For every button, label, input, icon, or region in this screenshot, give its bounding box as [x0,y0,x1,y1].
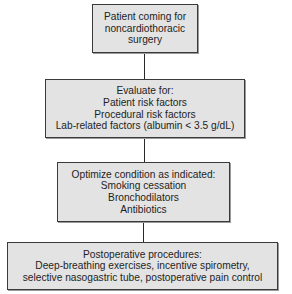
node-text: noncardiothoracic [105,23,185,35]
node-text: Patient coming for [104,11,186,23]
node-text: Antibiotics [120,204,166,216]
node-evaluate: Evaluate for: Patient risk factors Proce… [45,79,245,138]
node-text: Lab-related factors (albumin < 3.5 g/dL) [56,120,235,132]
node-patient-coming: Patient coming for noncardiothoracic sur… [92,4,198,53]
connector-start-evaluate [144,53,145,79]
node-text: Procedural risk factors [94,109,195,121]
node-text: surgery [128,34,162,46]
node-text: Deep-breathing exercises, incentive spir… [35,260,249,272]
node-text: Smoking cessation [101,180,187,192]
node-postoperative: Postoperative procedures: Deep-breathing… [7,242,278,290]
connector-optimize-postop [143,222,144,242]
node-text: Patient risk factors [103,97,187,109]
node-heading: Optimize condition as indicated: [72,169,216,181]
node-text: Bronchodilators [108,192,179,204]
node-text: selective nasogastric tube, postoperativ… [23,272,263,284]
connector-evaluate-optimize [144,138,145,162]
node-heading: Postoperative procedures: [83,249,202,261]
node-optimize: Optimize condition as indicated: Smoking… [57,162,230,222]
node-heading: Evaluate for: [116,85,173,97]
